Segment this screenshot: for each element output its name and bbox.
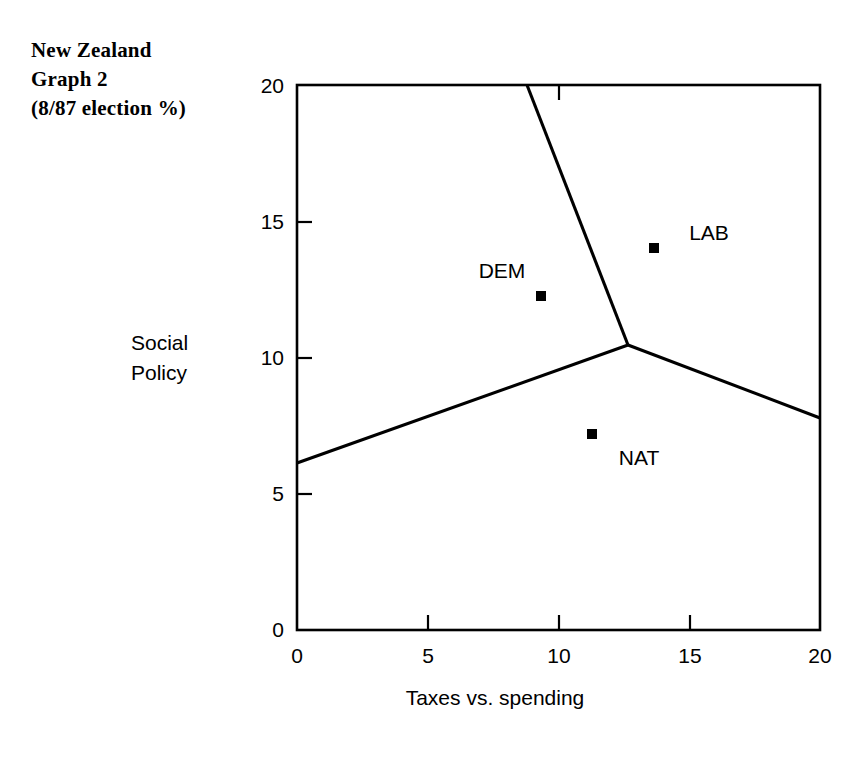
- y-tick-label-5: 5: [272, 482, 284, 505]
- y-tick-labels: 0 5 10 15 20: [261, 74, 284, 641]
- partition-boundaries: [297, 85, 820, 463]
- label-dem: DEM: [479, 259, 526, 282]
- dem-nat-boundary-line: [297, 345, 628, 463]
- y-tick-label-10: 10: [261, 346, 284, 369]
- figure-container: New Zealand Graph 2 (8/87 election %) So…: [0, 0, 868, 771]
- y-axis-ticks: [297, 222, 312, 494]
- label-nat: NAT: [619, 446, 660, 469]
- x-tick-label-0: 0: [291, 644, 303, 667]
- x-tick-label-5: 5: [422, 644, 434, 667]
- label-lab: LAB: [689, 221, 729, 244]
- marker-nat[interactable]: [587, 429, 597, 439]
- y-tick-label-15: 15: [261, 210, 284, 233]
- lab-nat-boundary-line: [628, 345, 820, 418]
- dem-lab-boundary-line: [527, 85, 628, 345]
- x-tick-labels: 0 5 10 15 20: [291, 644, 832, 667]
- y-tick-label-20: 20: [261, 74, 284, 97]
- x-tick-label-20: 20: [808, 644, 831, 667]
- data-point-labels: DEM LAB NAT: [479, 221, 729, 469]
- scatter-plot: 0 5 10 15 20 0 5 10 15 20 DEM: [0, 0, 868, 771]
- data-point-markers: [536, 243, 659, 439]
- x-tick-label-15: 15: [678, 644, 701, 667]
- y-tick-label-0: 0: [272, 618, 284, 641]
- marker-dem[interactable]: [536, 291, 546, 301]
- marker-lab[interactable]: [649, 243, 659, 253]
- x-tick-label-10: 10: [547, 644, 570, 667]
